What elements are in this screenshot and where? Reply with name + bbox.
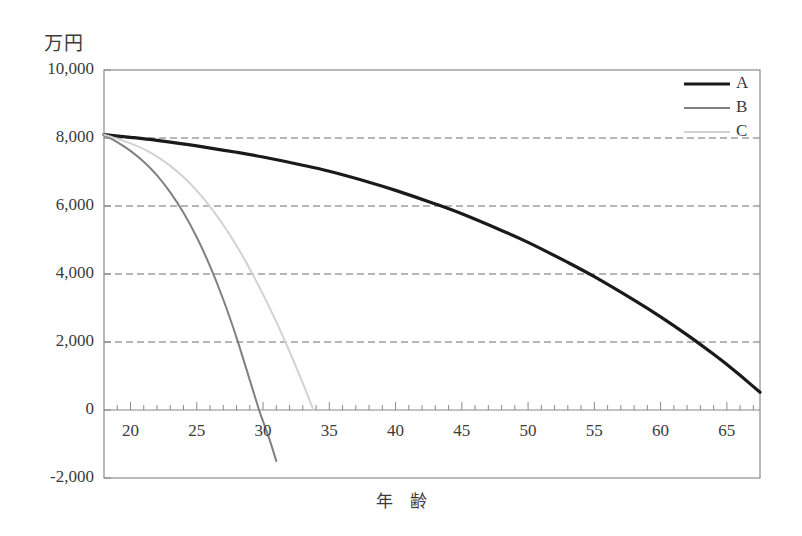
x-tick-label: 50 (505, 421, 551, 441)
chart-figure: 万円 年 齢 -2,00002,0004,0006,0008,00010,000… (0, 0, 802, 536)
data-series-group (104, 135, 760, 461)
x-tick-label: 40 (373, 421, 419, 441)
y-tick-label: -2,000 (8, 467, 94, 487)
x-tick-label: 30 (240, 421, 286, 441)
legend-label-a: A (736, 73, 748, 93)
y-tick-label: 8,000 (8, 127, 94, 147)
series-line-c (104, 135, 313, 410)
x-tick-label: 20 (108, 421, 154, 441)
x-tick-label: 60 (638, 421, 684, 441)
legend-label-c: C (736, 121, 747, 141)
y-tick-label: 2,000 (8, 331, 94, 351)
gridlines-group (104, 138, 760, 410)
legend-lines-group (684, 84, 730, 132)
plot-frame (104, 70, 760, 478)
x-tick-label: 55 (571, 421, 617, 441)
series-line-a (104, 135, 760, 393)
x-tick-label: 35 (306, 421, 352, 441)
y-tick-label: 4,000 (8, 263, 94, 283)
y-axis-unit-label: 万円 (44, 28, 84, 55)
x-tick-label: 65 (704, 421, 750, 441)
legend-label-b: B (736, 97, 747, 117)
plot-border (104, 70, 760, 478)
x-axis-title: 年 齢 (0, 487, 802, 512)
y-tick-label: 0 (8, 399, 94, 419)
x-tick-label: 45 (439, 421, 485, 441)
y-tick-label: 10,000 (8, 59, 94, 79)
y-tick-label: 6,000 (8, 195, 94, 215)
x-tick-label: 25 (174, 421, 220, 441)
chart-canvas (0, 0, 802, 536)
